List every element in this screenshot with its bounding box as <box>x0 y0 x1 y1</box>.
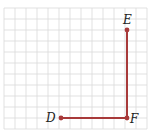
point-e <box>125 28 130 33</box>
label-d: D <box>45 111 56 125</box>
grid-diagram: D F E <box>0 0 149 136</box>
point-f <box>125 116 130 121</box>
point-d <box>59 116 64 121</box>
label-f: F <box>129 112 139 126</box>
label-e: E <box>122 13 132 27</box>
